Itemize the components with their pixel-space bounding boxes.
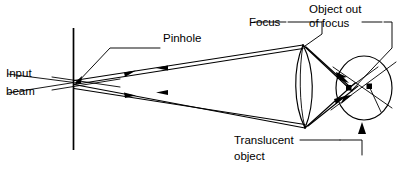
out-of-focus-label-line2: of focus: [309, 17, 350, 29]
ray-arrow-left-upper: [156, 66, 168, 71]
pinhole-optics-diagram: Pinhole Input beam Focus Object out of f…: [0, 0, 406, 180]
diagram-canvas: Pinhole Input beam Focus Object out of f…: [0, 0, 406, 180]
translucent-object-leader-line: [340, 140, 362, 155]
scatter-point-1: [346, 85, 352, 91]
lens-axis-line: [300, 45, 305, 128]
translucent-object-leader-arrowhead: [358, 122, 366, 134]
scatter-point-2: [367, 84, 373, 90]
cone-upper-edge-b: [74, 49, 303, 85]
exit-ray-lower-b: [308, 86, 358, 126]
cone-lower-edge-b: [74, 89, 305, 125]
exit-ray-arrow-lower: [341, 95, 352, 104]
pinhole-label: Pinhole: [163, 32, 201, 44]
translucent-object-label-line2: object: [234, 150, 265, 162]
out-of-focus-label-line1: Object out: [309, 3, 362, 15]
translucent-object-label-line1: Translucent: [234, 134, 294, 146]
input-beam-label-line2: beam: [6, 85, 35, 97]
ray-arrow-left-lower: [156, 90, 168, 95]
input-beam-label-line1: Input: [6, 67, 32, 79]
lens-right-surface: [303, 45, 312, 128]
